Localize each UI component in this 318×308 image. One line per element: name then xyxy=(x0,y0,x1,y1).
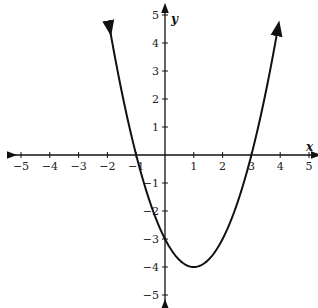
y-tick-label: −4 xyxy=(143,261,159,274)
x-tick-label: −2 xyxy=(99,160,115,173)
x-tick-label: −5 xyxy=(13,160,29,173)
parabola-chart: −5−4−3−2−11234554321−1−2−3−4−5 x y xyxy=(0,0,318,308)
x-tick-label: −3 xyxy=(70,160,86,173)
parabola-path xyxy=(110,28,278,267)
y-tick-label: 3 xyxy=(152,65,159,78)
x-axis-label: x xyxy=(305,140,314,154)
y-axis-label: y xyxy=(170,12,179,26)
x-tick-label: 4 xyxy=(277,160,284,173)
x-tick-label: 5 xyxy=(306,160,313,173)
axes xyxy=(12,8,316,304)
y-tick-label: 4 xyxy=(152,37,159,50)
x-tick-label: −4 xyxy=(42,160,58,173)
y-tick-label: −3 xyxy=(143,233,159,246)
parabola-curve xyxy=(110,28,278,267)
y-tick-label: 5 xyxy=(152,9,159,22)
y-tick-label: −5 xyxy=(143,289,159,302)
y-tick-label: 1 xyxy=(152,121,159,134)
x-tick-label: 1 xyxy=(190,160,197,173)
x-tick-label: 2 xyxy=(219,160,226,173)
x-tick-label: −1 xyxy=(128,160,144,173)
y-tick-label: 2 xyxy=(152,93,159,106)
